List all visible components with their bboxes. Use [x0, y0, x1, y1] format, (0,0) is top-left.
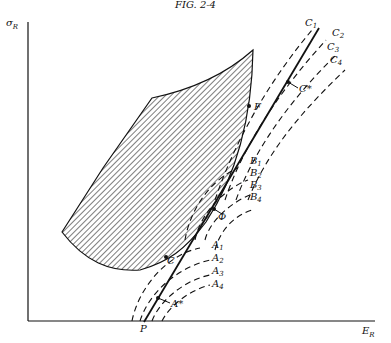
svg-text:A1: A1: [211, 239, 224, 252]
svg-text:B4: B4: [249, 191, 262, 204]
svg-text:A2: A2: [211, 252, 224, 265]
svg-text:A4: A4: [211, 278, 224, 291]
b-labels: B1 B2 B3 B4: [249, 155, 262, 204]
svg-text:A3: A3: [211, 265, 224, 278]
svg-text:C3: C3: [327, 41, 340, 54]
point-a-star-label: A*: [170, 298, 183, 309]
point-c-star-label: C*: [299, 83, 312, 94]
feasible-region: [62, 50, 253, 270]
y-axis-label: σR: [6, 17, 19, 31]
origin-p-label: P: [139, 323, 147, 334]
point-f-label: F: [253, 101, 262, 112]
point-phi-label: Φ: [218, 211, 226, 222]
svg-text:C2: C2: [332, 27, 345, 40]
svg-text:C1: C1: [305, 17, 317, 30]
portfolio-diagram: FIG. 2-4 σR ER F C Φ A* C*: [0, 0, 391, 343]
figure-header: FIG. 2-4: [174, 0, 216, 10]
point-c-label: C: [167, 255, 175, 266]
a-labels: A1 A2 A3 A4: [211, 239, 224, 291]
x-axis-label: ER: [361, 325, 375, 339]
svg-text:C4: C4: [330, 54, 342, 67]
